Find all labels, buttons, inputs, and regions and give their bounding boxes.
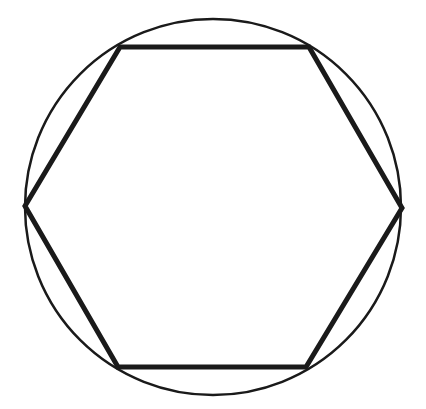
inscribed-hexagon-diagram bbox=[0, 0, 426, 409]
background bbox=[0, 0, 426, 409]
